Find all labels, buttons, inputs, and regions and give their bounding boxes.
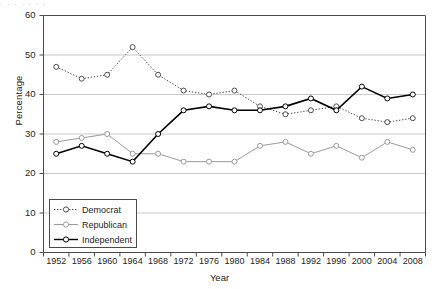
y-tick-0: 0 xyxy=(10,246,36,257)
datapoint-republican-1972 xyxy=(181,159,186,164)
datapoint-democrat-1980 xyxy=(232,88,237,93)
datapoint-independent-1996 xyxy=(334,108,339,113)
datapoint-independent-1984 xyxy=(257,108,262,113)
datapoint-republican-1964 xyxy=(130,151,135,156)
datapoint-democrat-1960 xyxy=(105,72,110,77)
datapoint-republican-2004 xyxy=(385,139,390,144)
legend-swatch-republican xyxy=(53,219,79,230)
datapoint-democrat-1952 xyxy=(54,64,59,69)
datapoint-independent-1980 xyxy=(232,108,237,113)
datapoint-republican-1996 xyxy=(334,143,339,148)
datapoint-democrat-1988 xyxy=(283,112,288,117)
datapoint-republican-2008 xyxy=(410,147,415,152)
legend-label-republican: Republican xyxy=(82,220,127,230)
series-independent xyxy=(54,84,416,164)
legend-item-independent[interactable]: Independent xyxy=(50,232,136,247)
datapoint-democrat-1972 xyxy=(181,88,186,93)
datapoint-independent-1976 xyxy=(207,104,212,109)
datapoint-independent-1992 xyxy=(308,96,313,101)
datapoint-democrat-2004 xyxy=(385,120,390,125)
datapoint-independent-2000 xyxy=(359,84,364,89)
datapoint-republican-1968 xyxy=(156,151,161,156)
legend-label-democrat: Democrat xyxy=(82,205,121,215)
datapoint-democrat-1968 xyxy=(156,72,161,77)
datapoint-republican-1960 xyxy=(105,132,110,137)
datapoint-independent-1972 xyxy=(181,108,186,113)
datapoint-democrat-2000 xyxy=(359,116,364,121)
y-tick-40: 40 xyxy=(10,88,36,99)
datapoint-democrat-1992 xyxy=(308,108,313,113)
x-axis-title: Year xyxy=(0,272,439,283)
datapoint-republican-1976 xyxy=(207,159,212,164)
datapoint-republican-1956 xyxy=(79,135,84,140)
y-tick-10: 10 xyxy=(10,207,36,218)
x-tick-2008: 2008 xyxy=(393,256,433,266)
datapoint-republican-2000 xyxy=(359,155,364,160)
datapoint-republican-1992 xyxy=(308,151,313,156)
legend: Democrat Republican Independent xyxy=(49,199,137,248)
legend-label-independent: Independent xyxy=(82,235,132,245)
datapoint-independent-1956 xyxy=(79,143,84,148)
legend-swatch-independent xyxy=(53,234,79,245)
series-republican xyxy=(54,132,416,165)
y-tick-60: 60 xyxy=(10,9,36,20)
datapoint-republican-1984 xyxy=(257,143,262,148)
datapoint-republican-1980 xyxy=(232,159,237,164)
y-tick-20: 20 xyxy=(10,167,36,178)
datapoint-republican-1988 xyxy=(283,139,288,144)
datapoint-democrat-2008 xyxy=(410,116,415,121)
y-tick-50: 50 xyxy=(10,49,36,60)
y-tick-30: 30 xyxy=(10,128,36,139)
datapoint-independent-1952 xyxy=(54,151,59,156)
legend-swatch-democrat xyxy=(53,204,79,215)
datapoint-independent-1968 xyxy=(156,132,161,137)
datapoint-independent-2004 xyxy=(385,96,390,101)
datapoint-democrat-1976 xyxy=(207,92,212,97)
datapoint-independent-1960 xyxy=(105,151,110,156)
datapoint-independent-2008 xyxy=(410,92,415,97)
datapoint-independent-1988 xyxy=(283,104,288,109)
datapoint-republican-1952 xyxy=(54,139,59,144)
datapoint-democrat-1956 xyxy=(79,76,84,81)
datapoint-democrat-1964 xyxy=(130,45,135,50)
legend-item-democrat[interactable]: Democrat xyxy=(50,202,136,217)
figure-chart: · · · · · · · Percentage Year 0102030405… xyxy=(0,0,439,289)
datapoint-independent-1964 xyxy=(130,159,135,164)
legend-item-republican[interactable]: Republican xyxy=(50,217,136,232)
